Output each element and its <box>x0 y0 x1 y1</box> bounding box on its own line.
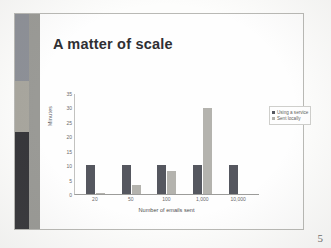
bar <box>132 185 141 194</box>
bar <box>167 171 176 194</box>
bar <box>193 165 202 194</box>
y-tick-label: 5 <box>69 178 72 184</box>
bar <box>96 193 105 194</box>
presentation-slide: A matter of scale Minutes 05101520253035… <box>14 13 304 230</box>
legend-swatch-icon <box>272 111 275 114</box>
chart-x-axis-title: Number of emails sent <box>74 207 259 213</box>
band-column-left <box>15 14 29 229</box>
bar <box>86 165 95 194</box>
y-tick-label: 10 <box>66 163 72 169</box>
bar <box>229 165 238 194</box>
legend-swatch-icon <box>272 117 275 120</box>
slide-decorative-band <box>15 14 40 229</box>
chart-legend: Using a serviceSent locally <box>269 106 311 125</box>
band-column-right <box>29 14 40 229</box>
bar <box>203 108 212 194</box>
bar <box>157 165 166 194</box>
legend-label: Using a service <box>277 110 308 115</box>
y-tick-label: 20 <box>66 134 72 140</box>
page-number: 5 <box>318 232 324 244</box>
band-segment-bottom <box>15 132 29 229</box>
x-tick-label: 1,000 <box>184 196 220 202</box>
bar-group <box>78 94 114 194</box>
y-tick-label: 25 <box>66 120 72 126</box>
chart-bar-groups <box>75 94 259 194</box>
bar-group <box>149 94 185 194</box>
bar-group <box>185 94 221 194</box>
legend-label: Sent locally <box>277 116 301 121</box>
legend-item: Using a service <box>272 110 308 115</box>
bar-group <box>220 94 256 194</box>
chart-y-axis-ticks: 05101520253035 <box>55 94 72 195</box>
band-segment-top <box>15 14 29 81</box>
legend-item: Sent locally <box>272 116 308 121</box>
bar <box>122 165 131 194</box>
y-tick-label: 30 <box>66 105 72 111</box>
bar-chart: Minutes 05101520253035 20501001,00010,00… <box>45 86 297 221</box>
x-tick-label: 100 <box>149 196 185 202</box>
chart-y-axis-title: Minutes <box>47 106 53 126</box>
y-tick-label: 35 <box>66 91 72 97</box>
chart-x-axis-ticks: 20501001,00010,000 <box>74 196 259 202</box>
slide-title: A matter of scale <box>53 36 173 52</box>
x-tick-label: 10,000 <box>220 196 256 202</box>
x-tick-label: 50 <box>113 196 149 202</box>
x-tick-label: 20 <box>77 196 113 202</box>
chart-plot-area <box>74 94 259 195</box>
y-tick-label: 0 <box>69 192 72 198</box>
scanned-page: A matter of scale Minutes 05101520253035… <box>0 0 331 248</box>
y-tick-label: 15 <box>66 149 72 155</box>
bar-group <box>114 94 150 194</box>
band-segment-middle <box>15 81 29 133</box>
